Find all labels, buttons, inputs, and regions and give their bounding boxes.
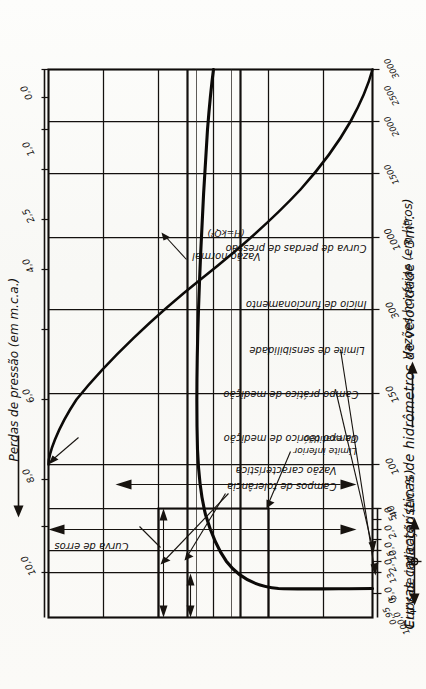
leader-vazao-normal <box>161 232 186 259</box>
error-tick-0: 0,0 <box>381 539 398 558</box>
error-tick-5-right: 5,0 <box>381 504 398 523</box>
annotation-inicio-funcionamento: Início de funcionamento <box>245 298 366 309</box>
error-scale-group: 5,0 2,0 0,0 2,0 5,0 + — <box>378 505 424 617</box>
annotation-curva-perdas-pressao: Curva de perdas de pressão <box>225 242 366 253</box>
span-tolerancia-narrow <box>186 573 194 617</box>
annotation-curva-de-erros: Curva de erros <box>54 540 128 551</box>
annotation-campo-pratico: Campo prático de medição <box>223 388 358 399</box>
rotated-figure-canvas: Curvas características de hidrômetros de… <box>0 0 426 689</box>
flow-axis-arrow <box>402 323 422 433</box>
annotation-limite-inferior: Limite inferior <box>293 445 356 455</box>
leader-limite-exatidao <box>266 451 290 508</box>
figure-page: Curvas características de hidrômetros de… <box>0 0 426 689</box>
annotation-hkq2: (H=kQ²) <box>207 227 244 237</box>
error-span-arrows <box>404 505 426 617</box>
leader-inicio-funcionamento <box>340 349 378 575</box>
annotation-limite-sensibilidade: Limite de sensibilidade <box>249 344 364 355</box>
leader-campos-tolerancia <box>160 493 228 564</box>
annotation-vazao-caracteristica: Vazão característica <box>235 464 336 475</box>
leader-vazao-caracteristica <box>48 437 78 464</box>
error-tick-2-left: 2,0 <box>381 556 398 575</box>
error-curve <box>196 69 372 588</box>
error-tick-2-right: 2,0 <box>381 522 398 541</box>
annotation-de-exatidao: de exatidão <box>303 433 356 443</box>
annotation-campos-de-tolerancia: Campos de tolerância <box>227 480 336 491</box>
pressure-loss-curve <box>48 69 372 464</box>
error-tick-5-left: 5,0 <box>381 584 398 603</box>
